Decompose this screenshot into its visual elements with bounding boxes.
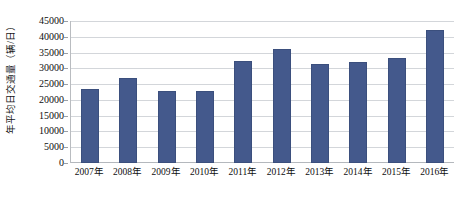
bar[interactable]: [81, 89, 99, 163]
y-axis-tick-mark: [64, 84, 68, 85]
bar[interactable]: [196, 91, 214, 163]
x-axis-tick-labels: 2007年2008年2009年2010年2011年2012年2013年2014年…: [70, 166, 454, 178]
x-axis-tick-label: 2016年: [416, 166, 454, 178]
y-axis-tick-mark: [64, 100, 68, 101]
x-axis-tick-label: 2013年: [300, 166, 338, 178]
bar-slot: [262, 21, 300, 163]
y-axis-tick-label: 45000: [39, 16, 64, 26]
y-axis-tick-mark: [64, 131, 68, 132]
x-axis-tick-label: 2008年: [108, 166, 146, 178]
y-axis-tick-labels: 0500010000150002000025000300003500040000…: [22, 14, 66, 164]
bar-series: [71, 21, 454, 163]
x-axis-tick-label: 2007年: [70, 166, 108, 178]
y-axis-tick-mark: [64, 37, 68, 38]
y-axis-tick-mark: [64, 68, 68, 69]
y-axis-tick-label: 40000: [39, 32, 64, 42]
y-axis-tick-mark: [64, 21, 68, 22]
y-axis-tick-label: 15000: [39, 111, 64, 121]
x-axis-tick-label: 2011年: [224, 166, 262, 178]
bar-slot: [339, 21, 377, 163]
y-axis-title: 年平均日交通量（辆/日）: [6, 13, 17, 143]
bar[interactable]: [349, 62, 367, 163]
bar-chart: 年平均日交通量（辆/日） 050001000015000200002500030…: [0, 0, 464, 199]
y-axis-tick-mark: [64, 116, 68, 117]
y-axis-tick-label: 5000: [44, 142, 64, 152]
y-axis-tick-label: 30000: [39, 63, 64, 73]
y-axis-tick-label: 10000: [39, 126, 64, 136]
y-axis-tick-label: 0: [59, 158, 64, 168]
y-axis-tick-mark: [64, 163, 68, 164]
bar-slot: [71, 21, 109, 163]
x-axis-tick-label: 2009年: [147, 166, 185, 178]
y-axis-tick-label: 35000: [39, 48, 64, 58]
bar-slot: [377, 21, 415, 163]
y-axis-tick-label: 20000: [39, 95, 64, 105]
bar[interactable]: [119, 78, 137, 163]
bar-slot: [416, 21, 454, 163]
bar-slot: [109, 21, 147, 163]
x-axis-tick-label: 2015年: [377, 166, 415, 178]
x-axis-tick-label: 2012年: [262, 166, 300, 178]
y-axis-tick-mark: [64, 53, 68, 54]
x-axis-tick-label: 2010年: [185, 166, 223, 178]
bar[interactable]: [273, 49, 291, 163]
bar[interactable]: [311, 64, 329, 163]
bar-slot: [148, 21, 186, 163]
bar[interactable]: [234, 61, 252, 163]
plot-area: [70, 21, 454, 163]
bar[interactable]: [426, 30, 444, 163]
y-axis-tick-label: 25000: [39, 79, 64, 89]
x-axis-tick-label: 2014年: [339, 166, 377, 178]
bar[interactable]: [388, 58, 406, 163]
y-axis-tick-mark: [64, 147, 68, 148]
bar[interactable]: [158, 91, 176, 163]
bar-slot: [301, 21, 339, 163]
bar-slot: [186, 21, 224, 163]
bar-slot: [224, 21, 262, 163]
